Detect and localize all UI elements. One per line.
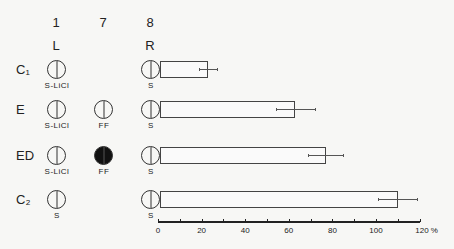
x-tick bbox=[223, 219, 224, 222]
row-label: C₂ bbox=[16, 192, 30, 207]
open-circle-icon bbox=[47, 60, 66, 79]
column-number: 1 bbox=[46, 15, 66, 30]
cell-sublabel: S bbox=[131, 121, 171, 130]
cell-sublabel: FF bbox=[84, 167, 124, 176]
error-cap bbox=[199, 68, 200, 71]
x-tick bbox=[202, 219, 203, 222]
error-cap bbox=[217, 68, 218, 71]
cell-sublabel: S-LiCl bbox=[37, 167, 77, 176]
x-tick-label: 60 bbox=[277, 226, 301, 235]
x-tick bbox=[180, 219, 181, 222]
open-circle-icon bbox=[141, 146, 160, 165]
error-bar bbox=[276, 109, 315, 110]
column-side-label: R bbox=[140, 38, 160, 53]
x-tick-label: 100 bbox=[364, 226, 388, 235]
error-cap bbox=[378, 198, 379, 201]
open-circle-icon bbox=[47, 190, 66, 209]
open-circle-icon bbox=[141, 190, 160, 209]
x-tick bbox=[245, 219, 246, 222]
x-tick bbox=[398, 219, 399, 222]
x-tick bbox=[267, 219, 268, 222]
error-cap bbox=[417, 198, 418, 201]
x-tick bbox=[289, 219, 290, 222]
open-circle-icon bbox=[94, 100, 113, 119]
cell-sublabel: S bbox=[37, 211, 77, 220]
error-cap bbox=[308, 154, 309, 157]
open-circle-icon bbox=[141, 100, 160, 119]
x-tick-label: 80 bbox=[320, 226, 344, 235]
x-tick bbox=[420, 219, 421, 222]
open-circle-icon bbox=[141, 60, 160, 79]
filled-circle-icon bbox=[94, 146, 113, 165]
x-tick bbox=[332, 219, 333, 222]
bar-ED bbox=[160, 147, 326, 164]
column-number: 8 bbox=[140, 15, 160, 30]
row-label: ED bbox=[16, 148, 34, 163]
x-tick-label: 20 bbox=[190, 226, 214, 235]
row-label: E bbox=[16, 102, 25, 117]
open-circle-icon bbox=[47, 100, 66, 119]
x-tick bbox=[376, 219, 377, 222]
x-tick bbox=[311, 219, 312, 222]
error-bar bbox=[308, 155, 343, 156]
x-tick-label: 0 bbox=[146, 226, 170, 235]
column-number: 7 bbox=[93, 15, 113, 30]
error-bar bbox=[378, 199, 417, 200]
open-circle-icon bbox=[47, 146, 66, 165]
x-tick-label: 120 % bbox=[412, 226, 442, 235]
cell-sublabel: FF bbox=[84, 121, 124, 130]
x-tick-label: 40 bbox=[233, 226, 257, 235]
error-bar bbox=[199, 69, 216, 70]
error-cap bbox=[343, 154, 344, 157]
row-label: C₁ bbox=[16, 62, 30, 77]
cell-sublabel: S bbox=[131, 167, 171, 176]
cell-sublabel: S-LiCl bbox=[37, 121, 77, 130]
column-side-label: L bbox=[46, 38, 66, 53]
cell-sublabel: S-LiCl bbox=[37, 81, 77, 90]
cell-sublabel: S bbox=[131, 211, 171, 220]
cell-sublabel: S bbox=[131, 81, 171, 90]
x-tick bbox=[158, 219, 159, 222]
error-cap bbox=[276, 108, 277, 111]
error-cap bbox=[315, 108, 316, 111]
x-tick bbox=[354, 219, 355, 222]
bar-C2 bbox=[160, 191, 398, 208]
